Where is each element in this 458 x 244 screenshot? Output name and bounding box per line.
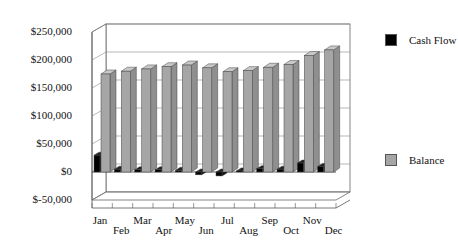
x-tick-label: Nov [303,214,322,226]
legend-label-cash-flow: Cash Flow [409,34,456,46]
legend-label-balance: Balance [409,154,444,166]
x-tick-label: Jan [93,214,108,226]
x-tick-label: Jul [221,214,234,226]
x-tick-label: Sep [262,214,279,226]
x-tick-label: May [175,214,195,226]
x-tick-label: Jun [199,224,214,236]
legend-item-balance: Balance [385,154,444,166]
x-tick-label: Aug [239,224,258,236]
x-tick-label: Dec [325,224,343,236]
x-tick-label: Oct [283,224,299,236]
x-tick-label: Mar [133,214,151,226]
legend-item-cash-flow: Cash Flow [385,34,456,46]
x-tick-label: Apr [155,224,172,236]
x-tick-label: Feb [113,224,130,236]
cash-flow-swatch-icon [385,34,397,46]
balance-swatch-icon [385,154,397,166]
